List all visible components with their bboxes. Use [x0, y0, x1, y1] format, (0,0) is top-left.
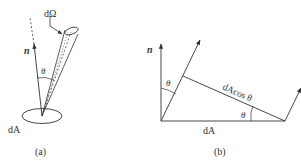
- normal-label-b: n: [147, 44, 153, 55]
- projected-area-line: [183, 76, 285, 121]
- area-label-a: dA: [8, 124, 21, 135]
- caption-a: (a): [35, 146, 46, 158]
- figure-b: n θ dAcos θ θ dA (b): [147, 40, 301, 158]
- figure-a: dΩ n θ dA (a): [8, 8, 79, 158]
- solid-angle-leader: [50, 17, 62, 34]
- angle-label-b-bottom: θ: [241, 110, 246, 120]
- area-label-b: dA: [203, 125, 216, 136]
- angle-label-b-top: θ: [166, 78, 171, 88]
- direction-vector-b-right: [285, 88, 301, 121]
- normal-dashed-extension: [30, 18, 34, 44]
- normal-label-a: n: [24, 45, 30, 56]
- caption-b: (b): [214, 146, 226, 158]
- normal-vector-a: [34, 44, 42, 116]
- solid-angle-label: dΩ: [44, 8, 56, 19]
- diagram-canvas: dΩ n θ dA (a) n θ dAcos θ θ dA (b): [0, 0, 301, 168]
- angle-arc-b-bottom: [251, 106, 253, 121]
- angle-label-a: θ: [41, 66, 46, 76]
- angle-arc-b-top: [161, 88, 176, 94]
- solid-angle-cone: [42, 26, 79, 116]
